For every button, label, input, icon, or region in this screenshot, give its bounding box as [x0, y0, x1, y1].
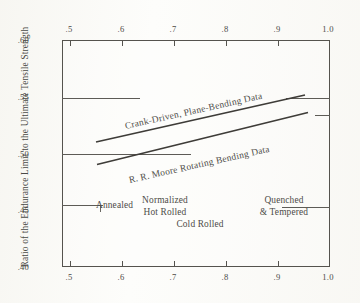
- band-line-crank-driven-plane-bending: [96, 95, 305, 142]
- material-label-normalized: Normalized Hot Rolled: [142, 195, 188, 218]
- band-lines-group: [0, 0, 360, 303]
- material-label-quenched-tempered: Quenched & Tempered: [260, 195, 308, 218]
- material-label-quenched-line2: & Tempered: [260, 207, 308, 219]
- endurance-limit-chart: Ratio of the Endurance Limit to the Ulti…: [0, 0, 360, 303]
- material-label-quenched-line1: Quenched: [260, 195, 308, 207]
- material-label-normalized-line2: Hot Rolled: [142, 207, 188, 219]
- material-label-annealed: Annealed: [96, 200, 133, 212]
- material-label-cold-rolled: Cold Rolled: [176, 219, 223, 231]
- material-label-normalized-line1: Normalized: [142, 195, 188, 207]
